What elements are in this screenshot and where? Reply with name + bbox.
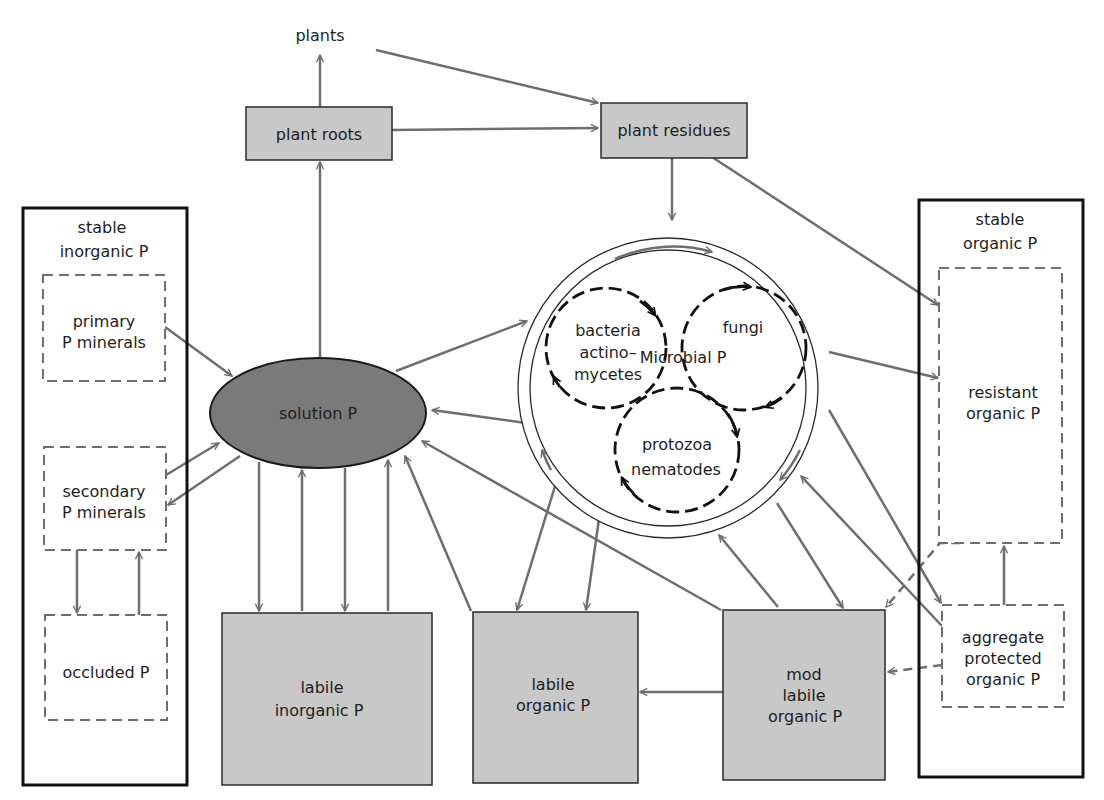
arrow-microbial-to-labile-organic-2 (586, 519, 599, 610)
labile-inorganic-p-box: labile inorganic P (222, 613, 432, 785)
aggregate-label-1: aggregate (962, 628, 1044, 647)
protozoa-label-2: nematodes (631, 460, 721, 479)
labile-organic-label-2: organic P (516, 696, 591, 715)
plants-label: plants (295, 26, 344, 45)
plant-roots-box: plant roots (246, 107, 392, 160)
arrow-roots-to-residues (392, 128, 598, 130)
arrow-aggregate-to-mod-labile (888, 665, 942, 672)
arrow-mod-labile-to-microbial (719, 535, 778, 607)
stable-inorganic-title-2: inorganic P (60, 242, 149, 261)
arrow-solution-to-microbial (396, 321, 527, 371)
mod-labile-label-2: labile (782, 686, 825, 705)
secondary-label-1: secondary (63, 482, 146, 501)
microbial-p-label: Microbial P (640, 348, 727, 367)
labile-organic-label-1: labile (531, 675, 574, 694)
aggregate-label-3: organic P (966, 670, 1041, 689)
arrow-microbial-to-resistant (829, 352, 938, 378)
mod-labile-organic-p-box: mod labile organic P (723, 610, 885, 780)
arrow-microbial-to-labile-organic-1 (517, 483, 556, 610)
bacteria-label-3: mycetes (574, 365, 642, 384)
labile-inorganic-label-2: inorganic P (275, 701, 364, 720)
solution-p-node: solution P (210, 358, 426, 468)
secondary-label-2: P minerals (62, 503, 146, 522)
arrow-resistant-to-mod-labile (886, 543, 960, 607)
occluded-label: occluded P (63, 663, 150, 682)
labile-organic-p-box: labile organic P (473, 612, 638, 783)
arrow-solution-to-secondary (168, 456, 240, 505)
arrow-secondary-to-solution (166, 443, 219, 475)
plant-residues-label: plant residues (617, 121, 730, 140)
aggregate-label-2: protected (964, 649, 1041, 668)
arrow-labile-organic-to-solution (405, 456, 471, 611)
stable-organic-title-2: organic P (963, 234, 1038, 253)
fungi-label: fungi (723, 318, 764, 337)
plant-roots-label: plant roots (276, 125, 362, 144)
plant-residues-box: plant residues (601, 103, 747, 158)
primary-label-1: primary (73, 312, 136, 331)
arrow-microbial-to-solution (432, 410, 526, 423)
stable-organic-p-box: stable organic P resistant organic P agg… (919, 200, 1083, 777)
stable-inorganic-title-1: stable (78, 218, 127, 237)
phosphorus-cycle-diagram: plants plant roots plant residues stable… (0, 0, 1104, 800)
stable-organic-title-1: stable (976, 210, 1025, 229)
primary-label-2: P minerals (62, 333, 146, 352)
arrow-plants-to-residues (376, 50, 598, 103)
arrow-aggregate-to-microbial (801, 476, 942, 626)
solution-p-label: solution P (279, 404, 357, 423)
resistant-label-1: resistant (968, 383, 1038, 402)
arrow-microbial-to-aggregate (829, 410, 941, 603)
stable-inorganic-p-box: stable inorganic P primary P minerals se… (23, 208, 187, 785)
bacteria-label-1: bacteria (575, 321, 641, 340)
bacteria-label-2: actino– (579, 343, 636, 362)
microbial-p-node: bacteria actino– mycetes fungi protozoa … (518, 238, 818, 538)
labile-inorganic-label-1: labile (300, 678, 343, 697)
arrow-primary-to-solution (165, 327, 232, 376)
mod-labile-label-1: mod (786, 665, 822, 684)
protozoa-label-1: protozoa (642, 435, 712, 454)
resistant-label-2: organic P (966, 404, 1041, 423)
mod-labile-label-3: organic P (768, 707, 843, 726)
arrow-microbial-to-mod-labile (777, 503, 843, 608)
